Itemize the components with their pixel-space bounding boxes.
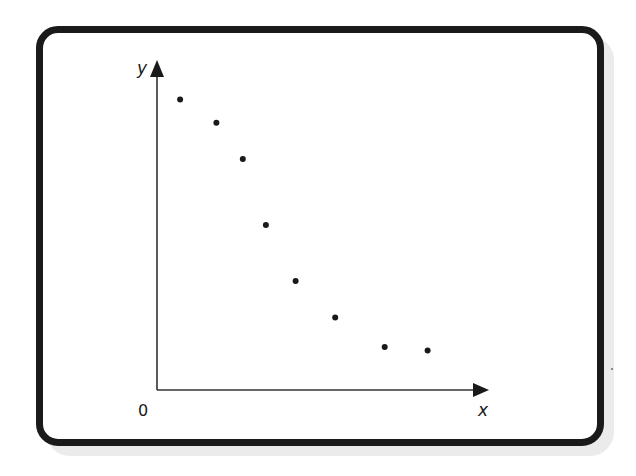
data-point [293, 278, 299, 284]
scatter-plot [0, 0, 636, 476]
x-axis-arrow-icon [473, 383, 489, 397]
stray-mark [611, 368, 613, 370]
data-point [240, 156, 246, 162]
data-point [213, 120, 219, 126]
data-points [177, 97, 431, 354]
data-point [177, 97, 183, 103]
y-axis-label: y [137, 58, 147, 78]
data-point [425, 347, 431, 353]
data-point [332, 314, 338, 320]
data-point [263, 222, 269, 228]
data-point [382, 344, 388, 350]
y-axis-arrow-icon [150, 60, 164, 77]
origin-label: 0 [138, 401, 148, 420]
x-axis-label: x [478, 400, 488, 420]
